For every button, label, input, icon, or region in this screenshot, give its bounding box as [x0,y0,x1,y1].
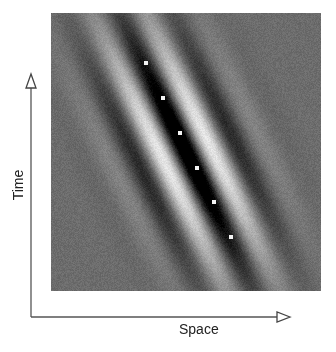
y-axis-label: Time [11,170,25,201]
y-axis [26,74,36,317]
axes [0,0,336,352]
y-axis-arrowhead-icon [26,74,36,88]
space-time-figure: Space Time [0,0,336,352]
x-axis-arrowhead-icon [277,312,290,322]
x-axis-label: Space [179,322,219,336]
x-axis [31,312,290,322]
